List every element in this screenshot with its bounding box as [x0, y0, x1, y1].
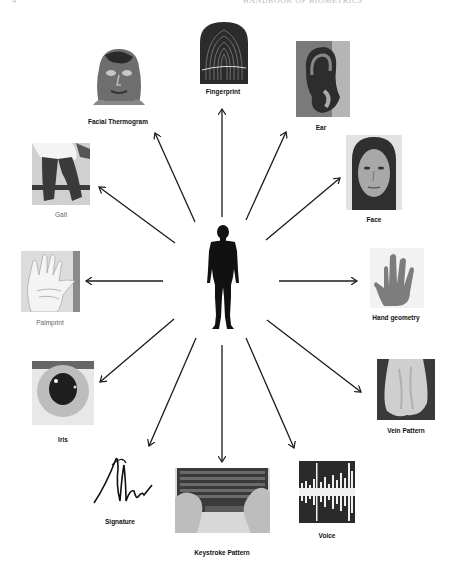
voice-waveform-image — [299, 461, 355, 523]
iris-label: Iris — [58, 436, 68, 443]
palmprint-image — [21, 251, 80, 312]
arrow-signature — [149, 338, 196, 446]
gait-image — [32, 143, 90, 205]
keystroke-keyboard-image — [175, 468, 270, 533]
arrow-face — [266, 178, 340, 240]
arrow-facial-thermogram — [155, 133, 195, 222]
vein-pattern-label: Vein Pattern — [387, 427, 425, 434]
arrow-gait — [99, 187, 175, 243]
facial-thermogram-label: Facial Thermogram — [88, 118, 148, 125]
facial-thermogram-image — [89, 45, 149, 105]
vein-pattern-image — [377, 359, 435, 420]
arrow-ear — [246, 132, 286, 220]
face-label: Face — [367, 216, 382, 223]
signature-label: Signature — [105, 518, 135, 525]
gait-label: Gait — [55, 211, 67, 218]
voice-label: Voice — [319, 532, 336, 539]
palmprint-label: Palmprint — [36, 319, 63, 326]
fingerprint-image — [196, 20, 252, 84]
face-image — [346, 135, 402, 210]
human-silhouette-icon — [203, 225, 243, 333]
fingerprint-label: Fingerprint — [206, 88, 240, 95]
arrow-voice — [246, 338, 294, 448]
iris-image — [32, 361, 94, 425]
hand-geometry-label: Hand geometry — [372, 314, 419, 321]
keystroke-pattern-label: Keystroke Pattern — [194, 549, 250, 556]
ear-label: Ear — [316, 124, 326, 131]
hand-geometry-image — [370, 248, 424, 308]
arrow-vein-pattern — [267, 320, 361, 392]
signature-image — [92, 455, 154, 507]
ear-image — [296, 41, 350, 117]
arrow-iris — [100, 319, 174, 382]
